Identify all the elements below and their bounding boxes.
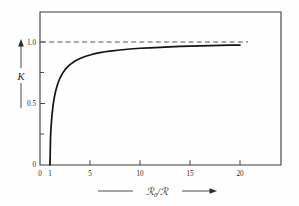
x-tick-label-1: 1 bbox=[48, 170, 52, 178]
figure-container: 1.0 0.5 0 0 1 5 10 15 20 K ℛ0/ℛ bbox=[0, 0, 299, 206]
data-curve bbox=[50, 45, 240, 165]
x-tick-label-0: 0 bbox=[38, 170, 42, 178]
y-tick-label-1.0: 1.0 bbox=[27, 39, 36, 47]
y-axis-ticks bbox=[40, 42, 45, 134]
x-axis-label: ℛ0/ℛ bbox=[146, 186, 169, 198]
x-tick-label-15: 15 bbox=[186, 170, 194, 178]
x-axis-label-symbol2: ℛ bbox=[160, 186, 169, 197]
x-tick-label-20: 20 bbox=[236, 170, 244, 178]
y-arrow-head bbox=[18, 39, 24, 47]
x-tick-label-5: 5 bbox=[88, 170, 92, 178]
y-tick-label-0: 0 bbox=[32, 161, 36, 169]
y-axis-label: K bbox=[16, 71, 25, 82]
y-tick-label-0.5: 0.5 bbox=[27, 100, 36, 108]
x-tick-label-10: 10 bbox=[136, 170, 144, 178]
plot-frame bbox=[40, 12, 281, 165]
x-axis-ticks bbox=[50, 160, 240, 165]
chart-plot-area: 1.0 0.5 0 0 1 5 10 15 20 K ℛ0/ℛ bbox=[0, 0, 299, 206]
x-arrow-head bbox=[210, 188, 218, 194]
